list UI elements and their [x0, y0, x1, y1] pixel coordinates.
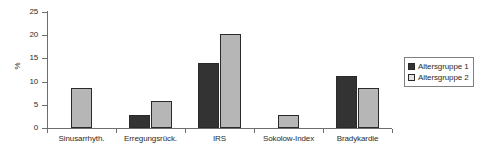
- bar-1: [278, 115, 299, 128]
- y-axis-tick-label: 15: [8, 54, 38, 62]
- y-axis-tick-label: 5: [8, 101, 38, 109]
- legend-item[interactable]: Altersgruppe 2: [408, 72, 469, 83]
- light-square-icon: [408, 74, 415, 81]
- x-axis-tick: [185, 129, 186, 133]
- y-axis-tick-label: 0: [8, 124, 38, 132]
- x-axis-line: [47, 128, 392, 129]
- y-axis-tick-label: 25: [8, 8, 38, 16]
- x-axis-tick: [254, 129, 255, 133]
- x-axis-tick: [392, 129, 393, 133]
- plot-area: [47, 12, 392, 128]
- legend-item[interactable]: Altersgruppe 1: [408, 61, 469, 72]
- x-axis-category-label: Bradykardie: [308, 134, 408, 143]
- bar-1: [220, 34, 241, 128]
- legend-item-label: Altersgruppe 2: [418, 73, 469, 82]
- y-axis-tick-label: 20: [8, 31, 38, 39]
- bar-0: [129, 115, 150, 128]
- chart-legend: Altersgruppe 1 Altersgruppe 2: [404, 57, 474, 87]
- legend-item-label: Altersgruppe 1: [418, 62, 469, 71]
- x-axis-tick: [47, 129, 48, 133]
- bar-1: [358, 88, 379, 128]
- dark-square-icon: [408, 63, 415, 70]
- bar-0: [336, 76, 357, 128]
- x-axis-tick: [323, 129, 324, 133]
- bar-0: [198, 63, 219, 128]
- y-axis-tick-label: 10: [8, 78, 38, 86]
- bar-1: [71, 88, 92, 128]
- bar-1: [151, 101, 172, 128]
- x-axis-tick: [116, 129, 117, 133]
- bar-chart: % 0510152025 Sinusarrhyth.Erregungsrück.…: [0, 0, 495, 160]
